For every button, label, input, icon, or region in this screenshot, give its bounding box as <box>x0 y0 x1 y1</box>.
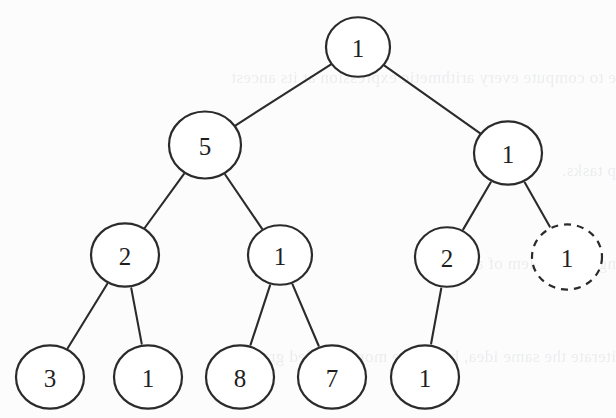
tree-node[interactable]: 1 <box>532 224 602 289</box>
tree-edge <box>384 65 480 133</box>
node-label: 1 <box>419 365 432 392</box>
node-layer: 151212131871 <box>16 17 602 408</box>
tree-edge <box>293 284 319 345</box>
node-label: 3 <box>44 365 57 392</box>
tree-svg: 151212131871 <box>0 0 616 418</box>
tree-node[interactable]: 8 <box>206 345 274 408</box>
tree-node[interactable]: 1 <box>474 121 542 184</box>
node-label: 2 <box>441 245 454 272</box>
tree-edge <box>131 288 141 343</box>
tree-node[interactable]: 2 <box>415 227 479 287</box>
tree-node[interactable]: 1 <box>248 225 312 285</box>
tree-edge <box>431 288 441 343</box>
node-label: 1 <box>274 243 287 270</box>
tree-node[interactable]: 7 <box>298 345 366 408</box>
tree-node[interactable]: 5 <box>169 112 241 179</box>
tree-edge <box>68 284 107 348</box>
tree-node[interactable]: 3 <box>16 345 84 408</box>
node-label: 1 <box>502 141 515 168</box>
tree-edge <box>235 64 331 125</box>
node-label: 2 <box>119 243 132 270</box>
node-label: 1 <box>142 365 155 392</box>
tree-diagram-canvas: e to compute every arithmetic expression… <box>0 0 616 418</box>
edge-layer <box>68 64 550 348</box>
tree-node[interactable]: 1 <box>391 345 459 408</box>
tree-edge <box>525 183 550 227</box>
tree-node[interactable]: 1 <box>326 17 390 77</box>
node-label: 1 <box>352 35 365 62</box>
tree-node[interactable]: 2 <box>91 223 159 286</box>
tree-node[interactable]: 1 <box>114 345 182 408</box>
node-label: 7 <box>326 365 339 392</box>
tree-edge <box>225 175 262 229</box>
tree-edge <box>145 174 184 227</box>
tree-edge <box>463 182 491 229</box>
tree-edge <box>251 285 270 344</box>
node-label: 8 <box>234 365 247 392</box>
node-label: 5 <box>199 133 212 160</box>
node-label: 1 <box>561 245 574 272</box>
